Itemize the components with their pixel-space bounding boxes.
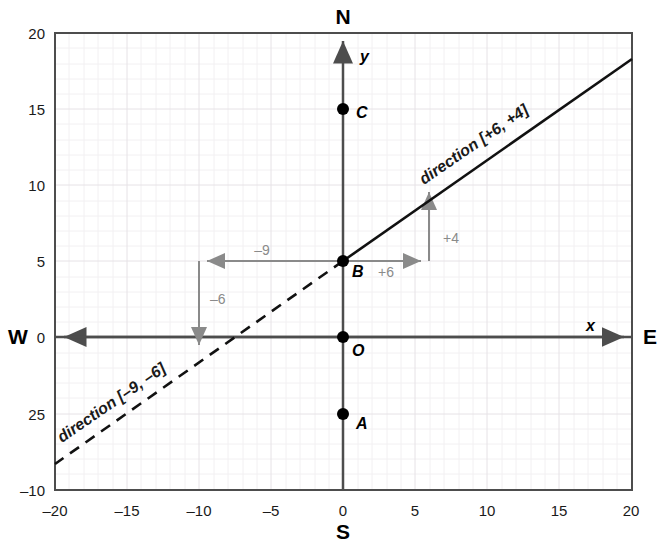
x-tick-minus-10: –10	[186, 502, 211, 519]
x-tick-20: 20	[623, 502, 640, 519]
x-tick-10: 10	[479, 502, 496, 519]
x-tick-minus-20: –20	[42, 502, 67, 519]
point-B[interactable]	[337, 255, 349, 267]
point-A[interactable]	[337, 408, 349, 420]
vector-label-minus-x: –9	[254, 242, 270, 258]
point-label-C: C	[356, 104, 368, 121]
y-tick-0: 0	[37, 329, 45, 346]
vector-label-plus-y: +4	[443, 230, 459, 246]
point-label-O: O	[352, 342, 365, 359]
compass-label-south: S	[336, 520, 350, 543]
y-tick-10: 10	[28, 177, 45, 194]
x-tick-minus-15: –15	[114, 502, 139, 519]
point-C[interactable]	[337, 103, 349, 115]
compass-label-east: E	[643, 325, 657, 348]
compass-label-west: W	[8, 325, 28, 348]
y-tick-15: 15	[28, 101, 45, 118]
y-tick-minus-10: –10	[20, 482, 45, 499]
point-label-A: A	[355, 415, 368, 432]
x-tick-15: 15	[551, 502, 568, 519]
x-tick-minus-5: –5	[263, 502, 280, 519]
point-O[interactable]	[337, 331, 349, 343]
coordinate-plane-figure: C B O A y x N S E W +6 +4 –9 –6 directio…	[0, 0, 664, 548]
x-tick-5: 5	[411, 502, 419, 519]
y-tick-20: 20	[28, 25, 45, 42]
figure-root: C B O A y x N S E W +6 +4 –9 –6 directio…	[0, 0, 664, 548]
compass-label-north: N	[335, 5, 350, 28]
x-axis-name: x	[585, 317, 596, 334]
x-tick-0: 0	[339, 502, 347, 519]
y-tick-minus-5: 25	[28, 406, 45, 423]
y-axis-name: y	[359, 48, 370, 65]
vector-label-plus-x: +6	[378, 264, 394, 280]
y-tick-5: 5	[37, 253, 45, 270]
point-label-B: B	[352, 263, 364, 280]
vector-label-minus-y: –6	[210, 291, 226, 307]
